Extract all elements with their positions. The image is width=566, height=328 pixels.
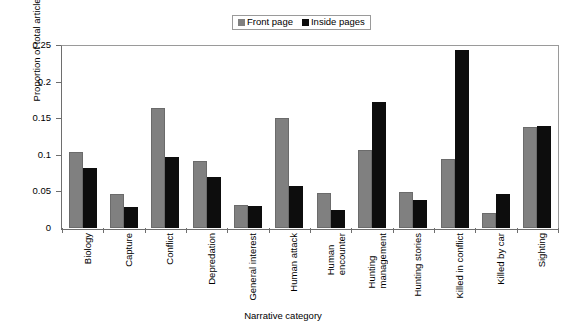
legend-entry-inside-pages: Inside pages [302,17,365,27]
y-axis-tick-labels: 00.050.10.150.20.25 [0,45,56,228]
bar-group [351,45,392,228]
x-axis-tick-label: Hunting stories [413,233,424,296]
x-axis-tick-mark [558,228,559,233]
bar-group [62,45,103,228]
bar-group [310,45,351,228]
x-axis-tick-label: Killed in conflict [455,233,466,298]
bar-inside-pages [496,194,510,228]
bar-group [186,45,227,228]
bar-inside-pages [165,157,179,228]
legend-label-inside-pages: Inside pages [311,17,365,27]
legend-label-front-page: Front page [247,17,293,27]
bar-front-page [317,193,331,228]
x-axis-tick-label: Conflict [165,233,176,265]
bar-group [227,45,268,228]
bar-front-page [441,159,455,228]
chart-legend: Front page Inside pages [232,15,371,30]
bar-front-page [275,118,289,228]
bar-inside-pages [372,102,386,228]
y-axis-tick-label: 0.15 [33,113,52,123]
x-axis-tick-label: Depredation [207,233,218,285]
x-axis-tick-label: Capture [124,233,135,267]
x-axis-tick-label: Killed by car [496,233,507,285]
y-axis-tick-label: 0.05 [33,186,52,196]
bar-inside-pages [83,168,97,228]
bar-inside-pages [537,126,551,228]
x-axis-title: Narrative category [0,310,566,321]
bar-front-page [69,152,83,228]
y-axis-tick-label: 0 [46,223,51,233]
bar-front-page [110,194,124,228]
legend-swatch-front-page [238,19,245,26]
bar-front-page [234,205,248,228]
bar-inside-pages [289,186,303,228]
x-axis-tick-label: Hunting management [367,233,388,288]
bar-group [393,45,434,228]
y-axis-tick-label: 0.1 [38,150,51,160]
bar-series-container [62,45,558,228]
bar-front-page [399,192,413,228]
bar-inside-pages [455,50,469,228]
bar-front-page [358,150,372,228]
bar-group [145,45,186,228]
x-axis-tick-label: Biology [83,233,94,264]
x-axis-tick-label: Human attack [289,233,300,292]
bar-inside-pages [331,210,345,228]
bar-inside-pages [413,200,427,228]
bar-group [517,45,558,228]
legend-swatch-inside-pages [302,19,309,26]
x-axis-tick-label: Human encounter [326,233,347,275]
bar-group [475,45,516,228]
bar-inside-pages [124,207,138,228]
x-axis-tick-label: Sighting [537,233,548,267]
bar-front-page [193,161,207,228]
y-axis-tick-label: 0.2 [38,77,51,87]
legend-entry-front-page: Front page [238,17,293,27]
bar-front-page [482,213,496,228]
bar-front-page [151,108,165,228]
bar-inside-pages [248,206,262,228]
y-axis-tick-label: 0.25 [33,40,52,50]
x-axis-tick-label: General interest [248,233,259,301]
bar-inside-pages [207,177,221,228]
bar-group [269,45,310,228]
bar-front-page [523,127,537,228]
bar-chart: Front page Inside pages Proportion of to… [0,0,566,328]
x-axis-tick-labels: BiologyCaptureConflictDepredationGeneral… [62,233,558,311]
bar-group [103,45,144,228]
bar-group [434,45,475,228]
